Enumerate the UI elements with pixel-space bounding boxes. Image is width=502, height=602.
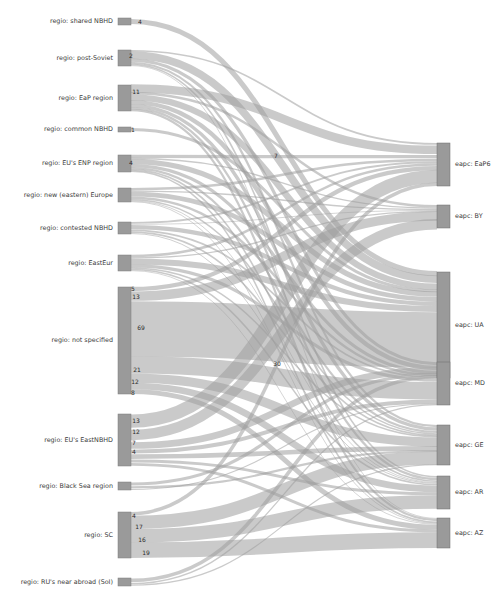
sankey-node-label-target: eapc: AZ [455, 529, 484, 537]
sankey-node-source[interactable] [118, 512, 131, 558]
sankey-link-value: 16 [138, 536, 146, 543]
sankey-node-source[interactable] [118, 188, 131, 202]
sankey-link-value: 4 [132, 512, 136, 519]
sankey-diagram: regio: shared NBHDregio: post-Sovietregi… [0, 0, 502, 602]
sankey-canvas: regio: shared NBHDregio: post-Sovietregi… [0, 0, 502, 602]
sankey-node-label-source: regio: RU's near abroad (SoI) [21, 578, 113, 586]
links-layer [131, 22, 437, 586]
sankey-node-label-target: eapc: EaP6 [455, 160, 490, 168]
sankey-node-source[interactable] [118, 482, 131, 490]
sankey-node-source[interactable] [118, 85, 131, 111]
sankey-node-source[interactable] [118, 18, 131, 25]
sankey-node-source[interactable] [118, 578, 131, 586]
sankey-node-source[interactable] [118, 127, 131, 132]
sankey-node-label-source: regio: EU's EastNBHD [44, 436, 113, 444]
sankey-node-target[interactable] [437, 143, 450, 186]
sankey-node-source[interactable] [118, 414, 131, 466]
sankey-link-value: 2 [129, 52, 133, 59]
sankey-node-label-target: eapc: BY [455, 212, 483, 220]
sankey-node-label-source: regio: Black Sea region [39, 482, 113, 490]
sankey-node-label-target: eapc: AR [455, 488, 484, 496]
sankey-node-source[interactable] [118, 222, 131, 234]
sankey-link-value: 7 [274, 152, 278, 159]
sankey-node-label-source: regio: EU's ENP region [42, 159, 113, 167]
sankey-node-label-source: regio: SC [84, 531, 113, 539]
sankey-node-label-source: regio: new (eastern) Europe [24, 191, 113, 199]
sankey-node-source[interactable] [118, 287, 131, 394]
sankey-node-target[interactable] [437, 425, 450, 465]
sankey-node-label-target: eapc: GE [455, 441, 484, 449]
sankey-link-value: 7 [132, 439, 136, 446]
sankey-node-target[interactable] [437, 362, 450, 405]
sankey-node-target[interactable] [437, 518, 450, 548]
sankey-link-value: 69 [137, 324, 145, 331]
sankey-link-value: 4 [138, 18, 142, 25]
sankey-node-source[interactable] [118, 255, 131, 271]
sankey-link-value: 4 [129, 159, 133, 166]
sankey-link-value: 8 [131, 389, 135, 396]
sankey-link-value: 5 [131, 285, 135, 292]
sankey-node-label-target: eapc: UA [455, 321, 484, 329]
sankey-link-value: 13 [132, 293, 140, 300]
sankey-link-value: 21 [133, 366, 141, 373]
sankey-link-value: 30 [273, 360, 281, 367]
sankey-link-value: 11 [132, 88, 140, 95]
sankey-link [131, 540, 437, 550]
sankey-node-target[interactable] [437, 205, 450, 228]
sankey-link-value: 13 [132, 417, 140, 424]
sankey-link-value: 17 [135, 523, 143, 530]
sankey-link-value: 12 [132, 428, 140, 435]
sankey-node-label-source: regio: common NBHD [44, 125, 113, 133]
sankey-node-label-target: eapc: MD [455, 379, 485, 387]
sankey-link-value: 19 [142, 549, 150, 556]
sankey-node-label-source: regio: shared NBHD [50, 17, 113, 25]
sankey-node-label-source: regio: not specified [52, 336, 113, 344]
sankey-node-label-source: regio: contested NBHD [40, 224, 113, 232]
sankey-link-value: 12 [131, 378, 139, 385]
sankey-link-value: 4 [132, 448, 136, 455]
sankey-node-label-source: regio: EaP region [59, 94, 113, 102]
sankey-node-target[interactable] [437, 476, 450, 509]
sankey-link-value: 1 [131, 126, 135, 133]
sankey-node-label-source: regio: EastEur [68, 259, 113, 267]
sankey-node-label-source: regio: post-Soviet [57, 54, 114, 62]
